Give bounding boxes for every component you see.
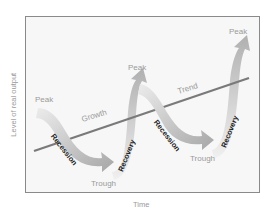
business-cycle-diagram xyxy=(0,0,267,216)
x-axis-label: Time xyxy=(133,201,149,209)
peak-label-3: Peak xyxy=(229,28,247,36)
peak-label-2: Peak xyxy=(128,64,146,72)
y-axis-label: Level of real output xyxy=(10,67,18,143)
peak-label-1: Peak xyxy=(35,96,53,104)
trough-label-1: Trough xyxy=(91,180,116,188)
trough-label-2: Trough xyxy=(190,155,215,163)
